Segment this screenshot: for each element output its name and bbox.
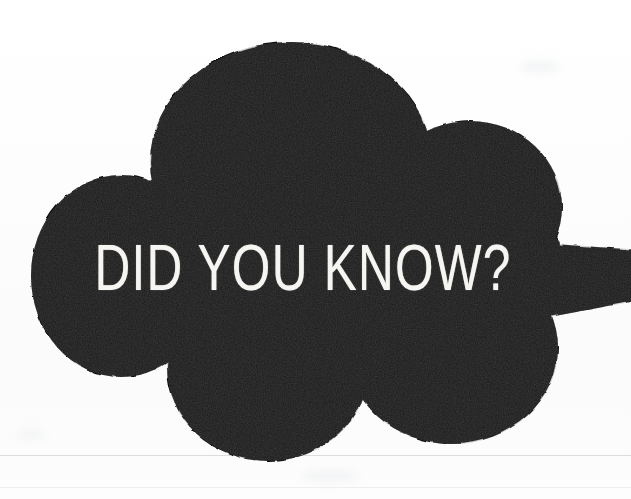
headline-did-you-know: DID YOU KNOW? <box>175 229 431 307</box>
illustration-canvas: DID YOU KNOW? <box>0 0 631 499</box>
